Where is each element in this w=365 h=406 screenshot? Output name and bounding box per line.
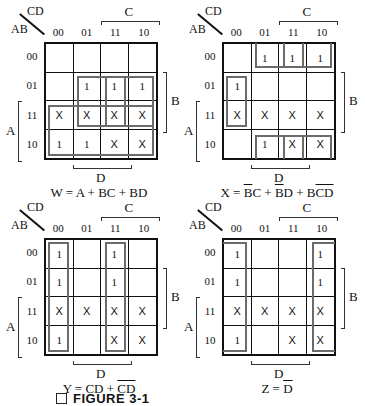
corner-cd-label: CD — [205, 4, 222, 19]
dont-care-value: X — [317, 138, 324, 150]
kmap-cell: 1 — [74, 130, 102, 159]
kmap-cell: X — [74, 101, 102, 130]
var-a-label: A — [6, 319, 15, 335]
dont-care-value: X — [83, 305, 90, 317]
kmap-cell: X — [279, 297, 307, 326]
kmap-cell: X — [101, 297, 129, 326]
kmap-cell: X — [279, 101, 307, 130]
kmap-cell: 1 — [224, 240, 252, 269]
kmap-cell — [101, 44, 129, 73]
kmap-cell — [74, 240, 102, 269]
column-label: 01 — [73, 26, 102, 38]
kmap-cell — [46, 73, 74, 102]
kmap-cell — [129, 44, 157, 73]
column-label: 01 — [73, 222, 102, 234]
var-b-label: B — [349, 93, 358, 109]
kmap-cell — [224, 44, 252, 73]
var-c-label: C — [303, 4, 312, 20]
var-a-label: A — [6, 123, 15, 139]
var-d-label: D — [274, 366, 283, 382]
row-label: 00 — [22, 50, 42, 62]
row-label: 10 — [200, 138, 220, 150]
var-c-label: C — [125, 4, 134, 20]
kmap-cell: X — [224, 297, 252, 326]
kmap-cell: X — [101, 101, 129, 130]
dont-care-value: X — [234, 109, 241, 121]
kmap-grid: 1111XXXX1XX — [222, 238, 336, 356]
column-label: 11 — [101, 222, 130, 234]
kmap-cell — [279, 240, 307, 269]
cell-value: 1 — [318, 52, 324, 64]
cell-value: 1 — [112, 80, 118, 92]
kmap-cell: X — [129, 130, 157, 159]
kmap-cell: X — [46, 101, 74, 130]
corner-ab-label: AB — [11, 218, 28, 233]
row-label: 01 — [22, 79, 42, 91]
column-label: 00 — [222, 26, 251, 38]
kmap-cell: 1 — [307, 240, 335, 269]
column-label: 11 — [101, 26, 130, 38]
d-bracket — [73, 361, 132, 365]
dont-care-value: X — [139, 305, 146, 317]
kmap-cell: X — [101, 130, 129, 159]
var-d-label: D — [274, 170, 283, 186]
figure-caption: FIGURE 3-1 — [56, 391, 150, 406]
corner-ab-label: AB — [11, 22, 28, 37]
row-label: 01 — [200, 79, 220, 91]
kmap-cell: 1 — [252, 44, 280, 73]
c-bracket — [101, 217, 160, 221]
var-b-label: B — [349, 289, 358, 305]
kmap-cell: 1 — [307, 269, 335, 298]
d-bracket — [251, 165, 310, 169]
kmap-cell: X — [74, 297, 102, 326]
kmap-cell: X — [279, 326, 307, 355]
var-a-label: A — [184, 319, 193, 335]
kmap-grid: 1111XXXX1XX — [222, 42, 336, 160]
kmap-cell: X — [307, 130, 335, 159]
kmap-cell: X — [252, 297, 280, 326]
b-bracket — [163, 268, 167, 329]
a-bracket — [196, 297, 200, 358]
kmap-cell: 1 — [129, 73, 157, 102]
dont-care-value: X — [111, 305, 118, 317]
cell-value: 1 — [318, 248, 324, 260]
d-bracket — [251, 361, 310, 365]
kmap-cell — [224, 130, 252, 159]
dont-care-value: X — [289, 138, 296, 150]
a-bracket — [18, 101, 22, 162]
kmap-cell — [129, 269, 157, 298]
var-a-label: A — [184, 123, 193, 139]
var-c-label: C — [125, 200, 134, 216]
kmap-cell: X — [46, 297, 74, 326]
dont-care-value: X — [317, 334, 324, 346]
kmap-cell — [279, 73, 307, 102]
c-bracket — [279, 21, 338, 25]
cell-value: 1 — [235, 276, 241, 288]
column-label: 01 — [251, 26, 280, 38]
kmap-cell: X — [101, 326, 129, 355]
column-label: 10 — [308, 222, 337, 234]
var-d-label: D — [96, 170, 105, 186]
kmap-cell: 1 — [307, 44, 335, 73]
cell-value: 1 — [290, 52, 296, 64]
dont-care-value: X — [111, 334, 118, 346]
var-c-label: C — [303, 200, 312, 216]
dont-care-value: X — [111, 138, 118, 150]
row-label: 00 — [22, 246, 42, 258]
row-label: 10 — [200, 334, 220, 346]
dont-care-value: X — [317, 109, 324, 121]
equation-text: Z = — [261, 381, 283, 396]
kmap-W: CDAB0001111000011110CDBA111XXXX11XXW = A… — [0, 0, 182, 200]
cell-value: 1 — [140, 80, 146, 92]
column-label: 01 — [251, 222, 280, 234]
cell-value: 1 — [57, 248, 63, 260]
kmap-cell — [252, 269, 280, 298]
column-label: 11 — [279, 222, 308, 234]
kmap-cell: X — [129, 297, 157, 326]
kmap-cell: 1 — [252, 130, 280, 159]
row-label: 11 — [22, 109, 42, 121]
cell-value: 1 — [112, 248, 118, 260]
kmap-cell: 1 — [46, 269, 74, 298]
dont-care-value: X — [83, 109, 90, 121]
kmap-cell: 1 — [46, 240, 74, 269]
